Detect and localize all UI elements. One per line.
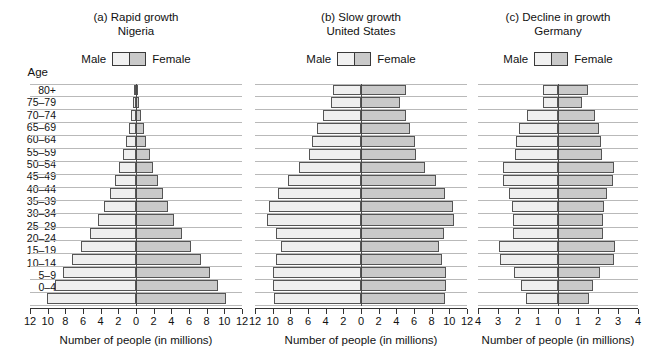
x-axis-tick-label: 4: [475, 315, 481, 327]
bar-female: [136, 175, 158, 186]
bar-female: [136, 214, 174, 225]
x-axis-tick-label: 12: [24, 315, 36, 327]
panel-title: (b) Slow growthUnited States: [255, 10, 467, 38]
bar-male: [273, 267, 361, 278]
bar-male: [512, 201, 558, 212]
chart-panel-germany: (c) Decline in growthGermanyMaleFemale43…: [478, 0, 638, 359]
x-axis-tick: [326, 309, 327, 314]
x-axis-tick-label: 8: [204, 315, 210, 327]
bar-male: [519, 123, 558, 134]
x-axis-tick-label: 4: [168, 315, 174, 327]
center-axis-line: [361, 84, 362, 306]
bar-male: [499, 241, 558, 252]
x-axis-title: Number of people (in millions): [30, 334, 242, 346]
x-axis-tick: [467, 309, 468, 314]
bar-female: [558, 267, 600, 278]
x-axis-tick-label: 8: [287, 315, 293, 327]
bar-male: [543, 85, 558, 95]
bar-male: [333, 85, 361, 95]
bar-male: [500, 254, 558, 265]
bar-female: [361, 162, 425, 173]
x-axis-tick-label: 8: [429, 315, 435, 327]
bar-female: [361, 85, 406, 95]
x-axis-tick-labels: 432101234: [478, 315, 638, 329]
bar-male: [514, 267, 558, 278]
bar-female: [136, 123, 144, 134]
bar-male: [55, 280, 136, 291]
x-axis-tick: [101, 309, 102, 314]
bar-male: [72, 254, 136, 265]
x-axis-tick-label: 0: [358, 315, 364, 327]
bar-female: [558, 201, 604, 212]
bar-female: [361, 123, 410, 134]
bar-female: [136, 267, 210, 278]
bar-male: [267, 214, 361, 225]
x-axis-tick-label: 2: [515, 315, 521, 327]
panel-title-line1: (b) Slow growth: [321, 11, 401, 23]
x-axis-tick: [154, 309, 155, 314]
x-axis-tick: [498, 309, 499, 314]
x-axis-tick-label: 12: [249, 315, 261, 327]
x-axis-tick-label: 6: [80, 315, 86, 327]
x-axis-tick: [118, 309, 119, 314]
bar-male: [526, 293, 558, 304]
legend-swatch-male: [338, 53, 354, 65]
x-axis-tick: [308, 309, 309, 314]
bar-male: [81, 241, 136, 252]
chart-panel-nigeria: (a) Rapid growthNigeriaMaleFemale1210864…: [30, 0, 242, 359]
bar-male: [104, 201, 136, 212]
bar-female: [558, 214, 603, 225]
x-axis-tick: [343, 309, 344, 314]
bar-female: [361, 97, 400, 108]
bar-female: [136, 162, 153, 173]
legend-swatch: [534, 52, 568, 66]
x-axis-title: Number of people (in millions): [478, 334, 638, 346]
legend-label-male: Male: [306, 53, 331, 65]
bar-male: [331, 97, 361, 108]
bar-female: [558, 136, 601, 147]
x-axis-tick-label: 10: [443, 315, 455, 327]
legend-label-female: Female: [574, 53, 612, 65]
x-axis-tick: [518, 309, 519, 314]
bar-male: [115, 175, 136, 186]
legend-label-male: Male: [81, 53, 106, 65]
x-axis-tick: [136, 309, 137, 314]
bar-male: [299, 162, 361, 173]
x-axis-tick: [255, 309, 256, 314]
bar-female: [136, 188, 163, 199]
bar-male: [513, 214, 558, 225]
bar-female: [361, 228, 444, 239]
bar-male: [543, 97, 558, 108]
bar-female: [558, 293, 589, 304]
plot-area: [30, 84, 242, 306]
x-axis-tick-label: 4: [323, 315, 329, 327]
bar-male: [281, 241, 361, 252]
x-axis-tick: [598, 309, 599, 314]
bar-female: [558, 110, 595, 121]
x-axis-tick: [638, 309, 639, 314]
bar-male: [119, 162, 136, 173]
legend-label-female: Female: [152, 53, 190, 65]
legend-swatch: [112, 52, 146, 66]
bar-female: [361, 214, 454, 225]
bar-male: [317, 123, 361, 134]
x-axis-tick: [379, 309, 380, 314]
x-axis-tick: [449, 309, 450, 314]
bar-female: [558, 123, 599, 134]
bar-female: [558, 241, 615, 252]
bar-male: [276, 228, 361, 239]
legend: MaleFemale: [255, 52, 467, 66]
x-axis-tick-label: 10: [218, 315, 230, 327]
x-axis-tick: [83, 309, 84, 314]
bar-male: [503, 175, 558, 186]
x-axis-tick-label: 1: [575, 315, 581, 327]
x-axis-tick: [224, 309, 225, 314]
bar-male: [269, 201, 361, 212]
bar-male: [123, 149, 136, 160]
bar-male: [47, 293, 136, 304]
legend-swatch-female: [129, 53, 146, 65]
bar-female: [558, 97, 582, 108]
bar-female: [361, 241, 439, 252]
plot-area: [478, 84, 638, 306]
x-axis-tick: [207, 309, 208, 314]
